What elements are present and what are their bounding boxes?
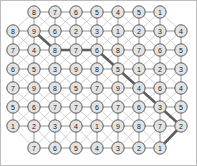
graph-node[interactable]: 4 — [91, 142, 103, 154]
graph-node[interactable]: 2 — [154, 63, 166, 75]
graph-node[interactable]: 6 — [49, 25, 61, 37]
graph-node[interactable]: 7 — [133, 44, 145, 56]
graph-node[interactable]: 4 — [175, 25, 187, 37]
node-circle — [70, 101, 82, 113]
graph-node[interactable]: 9 — [112, 120, 124, 132]
graph-node[interactable]: 7 — [28, 142, 40, 154]
graph-node[interactable]: 9 — [70, 63, 82, 75]
node-circle — [70, 142, 82, 154]
graph-canvas: 8765451896231234748768765653985123798579… — [0, 0, 197, 166]
graph-node[interactable]: 3 — [175, 63, 187, 75]
graph-node[interactable]: 7 — [91, 82, 103, 94]
node-circle — [49, 25, 61, 37]
graph-node[interactable]: 5 — [91, 6, 103, 18]
graph-node[interactable]: 6 — [91, 101, 103, 113]
node-circle — [7, 82, 19, 94]
graph-node[interactable]: 3 — [154, 101, 166, 113]
graph-node[interactable]: 5 — [70, 82, 82, 94]
node-circle — [70, 63, 82, 75]
node-circle — [28, 44, 40, 56]
graph-node[interactable]: 6 — [28, 101, 40, 113]
graph-node[interactable]: 8 — [133, 120, 145, 132]
graph-node[interactable]: 5 — [70, 142, 82, 154]
node-circle — [133, 63, 145, 75]
graph-node[interactable]: 5 — [133, 6, 145, 18]
graph-node[interactable]: 1 — [7, 120, 19, 132]
node-circle — [112, 82, 124, 94]
graph-node[interactable]: 3 — [112, 142, 124, 154]
graph-node[interactable]: 9 — [112, 82, 124, 94]
graph-node[interactable]: 8 — [112, 44, 124, 56]
graph-node[interactable]: 6 — [154, 82, 166, 94]
node-circle — [175, 63, 187, 75]
graph-node[interactable]: 7 — [154, 120, 166, 132]
node-circle — [70, 120, 82, 132]
graph-node[interactable]: 3 — [49, 120, 61, 132]
graph-node[interactable]: 6 — [70, 6, 82, 18]
node-circle — [49, 82, 61, 94]
graph-node[interactable]: 3 — [154, 25, 166, 37]
graph-node[interactable]: 5 — [28, 63, 40, 75]
graph-node[interactable]: 3 — [91, 25, 103, 37]
graph-node[interactable]: 8 — [49, 44, 61, 56]
graph-node[interactable]: 1 — [91, 120, 103, 132]
graph-node[interactable]: 6 — [7, 63, 19, 75]
node-circle — [91, 44, 103, 56]
node-circle — [70, 6, 82, 18]
graph-node[interactable]: 7 — [49, 101, 61, 113]
node-circle — [28, 6, 40, 18]
graph-node[interactable]: 2 — [175, 120, 187, 132]
graph-node[interactable]: 7 — [7, 44, 19, 56]
graph-node[interactable]: 9 — [28, 82, 40, 94]
graph-node[interactable]: 6 — [91, 44, 103, 56]
graph-node[interactable]: 3 — [49, 63, 61, 75]
node-circle — [133, 25, 145, 37]
graph-node[interactable]: 1 — [154, 142, 166, 154]
graph-node[interactable]: 5 — [7, 101, 19, 113]
lattice-graph-diagram: 8765451896231234748768765653985123798579… — [0, 0, 197, 166]
graph-node[interactable]: 4 — [112, 6, 124, 18]
node-circle — [112, 101, 124, 113]
graph-node[interactable]: 7 — [112, 101, 124, 113]
graph-node[interactable]: 2 — [133, 142, 145, 154]
node-circle — [49, 6, 61, 18]
graph-node[interactable]: 9 — [28, 25, 40, 37]
graph-node[interactable]: 1 — [133, 63, 145, 75]
graph-node[interactable]: 2 — [70, 25, 82, 37]
graph-node[interactable]: 5 — [175, 101, 187, 113]
graph-node[interactable]: 6 — [154, 44, 166, 56]
node-circle — [70, 82, 82, 94]
graph-node[interactable]: 2 — [28, 120, 40, 132]
node-circle — [175, 25, 187, 37]
graph-node[interactable]: 1 — [112, 25, 124, 37]
node-circle — [91, 120, 103, 132]
node-circle — [70, 44, 82, 56]
node-circle — [70, 25, 82, 37]
graph-node[interactable]: 4 — [70, 120, 82, 132]
graph-node[interactable]: 8 — [7, 25, 19, 37]
graph-node[interactable]: 7 — [49, 6, 61, 18]
graph-node[interactable]: 7 — [70, 101, 82, 113]
node-circle — [91, 63, 103, 75]
graph-node[interactable]: 8 — [49, 82, 61, 94]
node-circle — [133, 142, 145, 154]
graph-node[interactable]: 4 — [133, 82, 145, 94]
graph-node[interactable]: 7 — [7, 82, 19, 94]
graph-node[interactable]: 4 — [175, 82, 187, 94]
node-circle — [112, 44, 124, 56]
graph-node[interactable]: 4 — [28, 44, 40, 56]
graph-node[interactable]: 8 — [28, 6, 40, 18]
node-circle — [112, 120, 124, 132]
graph-node[interactable]: 1 — [154, 6, 166, 18]
graph-node[interactable]: 6 — [49, 142, 61, 154]
node-circle — [112, 6, 124, 18]
node-circle — [91, 142, 103, 154]
graph-node[interactable]: 8 — [91, 63, 103, 75]
node-circle — [49, 101, 61, 113]
graph-node[interactable]: 5 — [112, 63, 124, 75]
graph-node[interactable]: 2 — [133, 25, 145, 37]
graph-node[interactable]: 6 — [133, 101, 145, 113]
graph-node[interactable]: 5 — [175, 44, 187, 56]
graph-node[interactable]: 7 — [70, 44, 82, 56]
node-circle — [7, 25, 19, 37]
